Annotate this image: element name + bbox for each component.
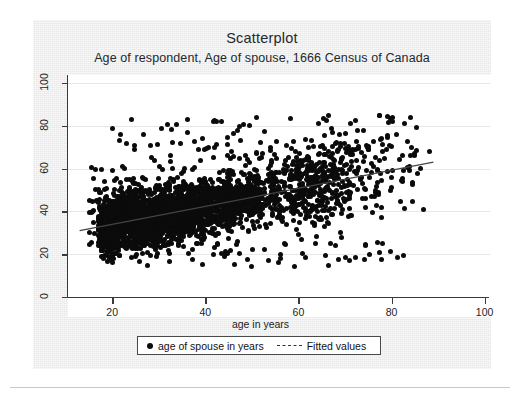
scatter-point bbox=[322, 195, 327, 200]
scatter-point bbox=[282, 171, 287, 176]
y-axis-tick-label: 80 bbox=[38, 112, 50, 138]
scatter-point bbox=[221, 168, 226, 173]
scatter-point bbox=[186, 251, 191, 256]
x-axis-tick bbox=[112, 298, 113, 304]
scatter-point bbox=[326, 149, 331, 154]
scatter-point bbox=[132, 233, 137, 238]
y-axis-tick-label: 40 bbox=[38, 197, 50, 223]
scatter-point bbox=[129, 210, 134, 215]
scatter-point bbox=[278, 252, 283, 257]
scatter-point bbox=[140, 231, 145, 236]
scatter-point bbox=[299, 172, 304, 177]
scatter-point bbox=[362, 257, 367, 262]
scatter-point bbox=[324, 215, 329, 220]
scatter-point bbox=[257, 224, 262, 229]
scatter-point bbox=[226, 236, 231, 241]
scatter-point bbox=[137, 209, 142, 214]
scatter-point bbox=[346, 214, 351, 219]
scatter-point bbox=[155, 223, 160, 228]
scatter-point bbox=[106, 209, 111, 214]
legend-label-fitted: Fitted values bbox=[307, 340, 367, 352]
scatter-point bbox=[276, 260, 281, 265]
scatter-point bbox=[252, 226, 257, 231]
scatter-point bbox=[225, 135, 230, 140]
scatter-point bbox=[190, 213, 195, 218]
scatter-point bbox=[257, 156, 262, 161]
scatter-point bbox=[385, 133, 390, 138]
scatter-point bbox=[200, 262, 205, 267]
scatter-point bbox=[249, 264, 254, 269]
scatter-point bbox=[141, 132, 146, 137]
scatter-point bbox=[388, 249, 393, 254]
scatter-point bbox=[356, 146, 361, 151]
scatter-point bbox=[151, 218, 156, 223]
scatter-point bbox=[248, 198, 253, 203]
scatter-point bbox=[134, 252, 139, 257]
scatter-point bbox=[317, 160, 322, 165]
scatter-point bbox=[367, 175, 372, 180]
scatter-point bbox=[380, 142, 385, 147]
legend-item-fitted: Fitted values bbox=[277, 340, 367, 352]
gridline bbox=[68, 83, 490, 84]
scatter-point bbox=[322, 224, 327, 229]
scatter-point bbox=[155, 142, 160, 147]
scatter-point bbox=[313, 214, 318, 219]
scatter-point bbox=[91, 176, 96, 181]
scatter-point bbox=[228, 191, 233, 196]
scatter-point bbox=[405, 139, 410, 144]
scatter-point bbox=[361, 128, 366, 133]
scatter-point bbox=[274, 139, 279, 144]
scatter-point bbox=[237, 156, 242, 161]
scatter-point bbox=[308, 209, 313, 214]
scatter-point bbox=[137, 259, 142, 264]
scatter-point bbox=[190, 247, 195, 252]
scatter-point bbox=[129, 214, 134, 219]
scatter-point bbox=[389, 144, 394, 149]
scatter-point bbox=[315, 198, 320, 203]
scatter-point bbox=[129, 117, 134, 122]
scatter-point bbox=[408, 115, 413, 120]
scatter-point bbox=[402, 121, 407, 126]
scatter-point bbox=[228, 156, 233, 161]
scatter-point bbox=[402, 206, 407, 211]
scatter-point bbox=[226, 228, 231, 233]
scatter-point bbox=[334, 201, 339, 206]
scatter-point bbox=[330, 212, 335, 217]
scatter-point bbox=[296, 196, 301, 201]
scatter-point bbox=[136, 200, 141, 205]
scatter-point bbox=[374, 203, 379, 208]
scatter-point bbox=[176, 218, 181, 223]
scatter-point bbox=[247, 123, 252, 128]
scatter-point bbox=[234, 242, 239, 247]
scatter-point bbox=[224, 206, 229, 211]
scatter-point bbox=[148, 143, 153, 148]
scatter-point bbox=[211, 155, 216, 160]
x-axis-tick-label: 100 bbox=[470, 306, 500, 318]
scatter-point bbox=[373, 155, 378, 160]
scatter-point bbox=[252, 167, 257, 172]
scatter-point bbox=[228, 185, 233, 190]
scatter-point bbox=[379, 205, 384, 210]
scatter-point bbox=[283, 242, 288, 247]
scatter-point bbox=[354, 158, 359, 163]
scatter-point bbox=[238, 138, 243, 143]
scatter-point bbox=[291, 139, 296, 144]
scatter-point bbox=[238, 200, 243, 205]
scatter-point bbox=[211, 252, 216, 257]
scatter-point bbox=[192, 139, 197, 144]
scatter-point bbox=[254, 115, 259, 120]
scatter-point bbox=[322, 208, 327, 213]
scatter-point bbox=[152, 198, 157, 203]
scatter-point bbox=[185, 117, 190, 122]
scatter-point bbox=[244, 217, 249, 222]
scatter-point bbox=[340, 155, 345, 160]
scatter-point bbox=[205, 183, 210, 188]
y-axis-tick-label: 0 bbox=[38, 283, 50, 309]
scatter-point bbox=[200, 179, 205, 184]
scatter-point bbox=[212, 118, 217, 123]
scatter-point bbox=[124, 141, 129, 146]
scatter-point bbox=[133, 188, 138, 193]
scatter-point bbox=[356, 165, 361, 170]
scatter-point bbox=[127, 185, 132, 190]
scatter-point bbox=[325, 200, 330, 205]
